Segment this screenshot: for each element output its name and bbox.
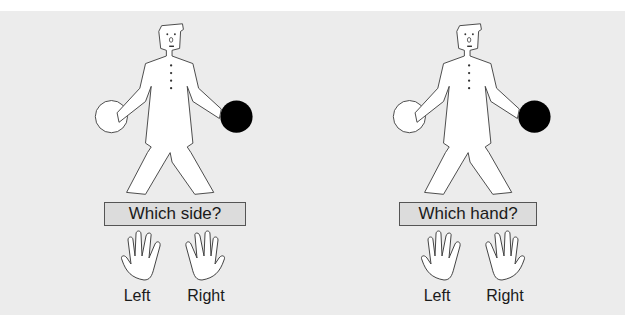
- question-text: Which side?: [129, 204, 222, 224]
- question-text: Which hand?: [418, 204, 517, 224]
- left-hand-icon[interactable]: [116, 230, 168, 282]
- question-box: Which side?: [104, 202, 246, 226]
- left-hand-icon[interactable]: [416, 230, 468, 282]
- right-label: Right: [176, 287, 236, 305]
- right-hand-icon[interactable]: [478, 230, 530, 282]
- left-label: Left: [107, 287, 167, 305]
- left-label: Left: [407, 287, 467, 305]
- figure-holding-balls: [88, 20, 258, 200]
- right-hand-icon[interactable]: [178, 230, 230, 282]
- figure-holding-balls: [386, 20, 556, 200]
- question-box: Which hand?: [399, 202, 537, 226]
- right-label: Right: [475, 287, 535, 305]
